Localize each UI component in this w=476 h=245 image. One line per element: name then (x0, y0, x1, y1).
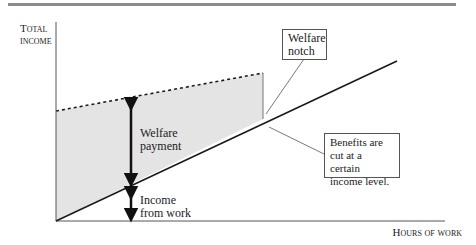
welfare-payment-label: Welfare payment (140, 127, 181, 153)
diagram-canvas (0, 0, 476, 245)
y-axis-label-line1: Total (20, 22, 52, 34)
benefits-leader-line (269, 127, 324, 154)
income-from-work-label-line2: from work (140, 207, 191, 220)
benefits-cut-callout-line1: Benefits are (330, 136, 394, 149)
y-axis-label-line2: income (20, 34, 52, 46)
x-axis-label: Hours of work (393, 226, 462, 238)
y-axis-label: Total income (20, 22, 52, 46)
welfare-notch-callout: Welfare notch (282, 29, 327, 60)
benefits-cut-callout: Benefits are cut at a certain income lev… (324, 133, 400, 178)
benefits-cut-callout-line2: cut at a certain (330, 149, 394, 175)
welfare-payment-label-line2: payment (140, 140, 181, 153)
benefits-cut-callout-line3: income level. (330, 175, 394, 188)
notch-leader-line (266, 59, 304, 114)
welfare-notch-callout-line2: notch (288, 45, 321, 58)
income-from-work-label: Income from work (140, 194, 191, 220)
